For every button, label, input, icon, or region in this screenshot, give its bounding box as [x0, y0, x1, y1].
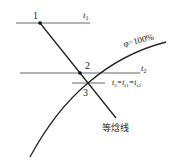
point-1-marker: [38, 21, 42, 25]
point-2-marker: [78, 71, 82, 75]
point-2-label: 2: [85, 60, 90, 71]
point-1-label: 1: [33, 10, 38, 21]
t2-label: t2: [141, 63, 147, 74]
point-3-label: 3: [83, 87, 88, 98]
isenthalpic-label: 等焓线: [102, 122, 129, 133]
t3-label: t3=ts1=ts2: [112, 78, 141, 88]
saturation-curve: [30, 42, 166, 157]
t1-label: t1: [83, 10, 89, 21]
psychrometric-diagram: 1 2 3 t1 t2 t3=ts1=ts2 φ=100% 等焓线: [0, 0, 179, 167]
